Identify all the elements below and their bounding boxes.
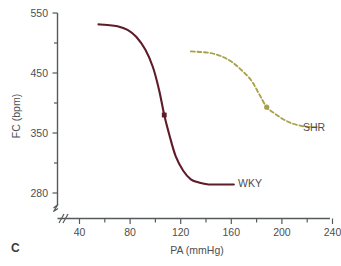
y-axis-tick-labels: 550 450 350 280 <box>30 7 48 199</box>
series-curve-wky <box>98 24 233 184</box>
x-axis-ticks <box>80 219 333 225</box>
x-tick-label-240: 240 <box>324 226 341 238</box>
y-tick-label-280: 280 <box>30 187 48 199</box>
data-marker-shr <box>264 105 269 110</box>
x-tick-label-160: 160 <box>223 226 241 238</box>
x-tick-label-200: 200 <box>273 226 291 238</box>
chart-svg: 550 450 350 280 40 80 120 160 200 <box>0 0 341 266</box>
x-axis-tick-labels: 40 80 120 160 200 240 <box>74 226 341 238</box>
x-tick-label-120: 120 <box>172 226 190 238</box>
y-tick-label-550: 550 <box>30 7 48 19</box>
series-curve-shr <box>191 51 318 127</box>
series-label-wky: WKY <box>238 177 262 189</box>
x-tick-label-80: 80 <box>124 226 136 238</box>
figure-panel-c: 550 450 350 280 40 80 120 160 200 <box>0 0 341 266</box>
y-tick-label-350: 350 <box>30 127 48 139</box>
y-axis-break-icon <box>54 205 59 212</box>
y-axis-title: FC (bpm) <box>10 94 22 138</box>
data-marker-wky <box>162 113 167 118</box>
y-tick-label-450: 450 <box>30 67 48 79</box>
y-axis-ticks <box>53 13 58 193</box>
panel-label: C <box>11 241 20 255</box>
x-axis-title: PA (mmHg) <box>170 244 223 256</box>
series-label-shr: SHR <box>303 121 326 133</box>
x-tick-label-40: 40 <box>74 226 86 238</box>
